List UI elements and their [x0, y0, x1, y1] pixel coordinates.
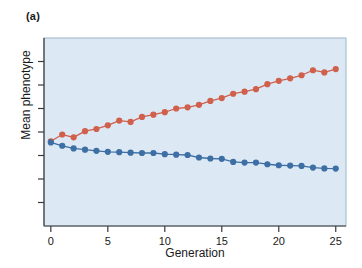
data-point: [71, 134, 77, 140]
plot-background: [44, 38, 346, 226]
data-point: [241, 89, 247, 95]
data-point: [321, 69, 327, 75]
svg-text:20: 20: [273, 235, 285, 247]
svg-text:5: 5: [105, 235, 111, 247]
data-point: [276, 78, 282, 84]
data-point: [82, 128, 88, 134]
data-point: [264, 161, 270, 167]
data-point: [196, 102, 202, 108]
svg-text:25: 25: [330, 235, 342, 247]
data-point: [310, 67, 316, 73]
data-point: [298, 72, 304, 78]
data-point: [150, 112, 156, 118]
data-point: [333, 66, 339, 72]
svg-text:0: 0: [48, 235, 54, 247]
data-point: [82, 147, 88, 153]
data-point: [162, 151, 168, 157]
data-point: [48, 139, 54, 145]
x-tick-labels: 0510152025: [48, 235, 342, 247]
data-point: [139, 114, 145, 120]
data-point: [71, 145, 77, 151]
data-point: [128, 150, 134, 156]
data-point: [59, 131, 65, 137]
data-point: [264, 81, 270, 87]
data-point: [287, 75, 293, 81]
data-point: [184, 152, 190, 158]
data-point: [230, 159, 236, 165]
data-point: [173, 152, 179, 158]
data-point: [59, 143, 65, 149]
data-point: [196, 154, 202, 160]
data-point: [184, 104, 190, 110]
svg-text:10: 10: [159, 235, 171, 247]
data-point: [207, 155, 213, 161]
data-point: [219, 156, 225, 162]
data-point: [116, 149, 122, 155]
data-point: [93, 148, 99, 154]
data-point: [253, 159, 259, 165]
data-point: [310, 164, 316, 170]
data-point: [333, 165, 339, 171]
data-point: [276, 162, 282, 168]
data-point: [287, 162, 293, 168]
data-point: [150, 150, 156, 156]
data-point: [230, 91, 236, 97]
data-point: [105, 149, 111, 155]
data-point: [173, 105, 179, 111]
data-point: [128, 119, 134, 125]
data-point: [139, 150, 145, 156]
data-point: [241, 159, 247, 165]
data-point: [207, 98, 213, 104]
data-point: [298, 163, 304, 169]
data-point: [116, 117, 122, 123]
data-point: [219, 95, 225, 101]
data-point: [162, 109, 168, 115]
line-chart: 0510152025: [0, 0, 362, 268]
data-point: [253, 86, 259, 92]
svg-text:15: 15: [216, 235, 228, 247]
figure-panel-a: (a) Mean phenotype Generation 0510152025: [0, 0, 362, 268]
data-point: [321, 165, 327, 171]
data-point: [105, 122, 111, 128]
data-point: [93, 126, 99, 132]
